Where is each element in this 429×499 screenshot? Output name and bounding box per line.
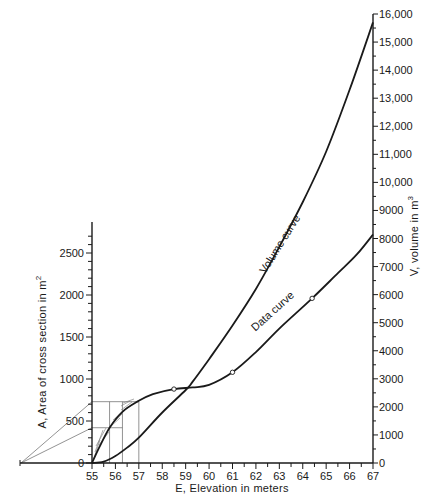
- y-right-axis-title-main: V, volume in m: [408, 200, 420, 276]
- y-left-tick-label: 1500: [60, 331, 84, 343]
- tick-labels: 5556575859606162636465666705001000150020…: [60, 8, 413, 482]
- y-right-tick-label: 10,000: [379, 176, 413, 188]
- y-right-tick-label: 6000: [379, 289, 403, 301]
- y-right-axis-title: V, volume in m3: [406, 195, 420, 276]
- y-right-axis-title-sup: 3: [406, 195, 415, 200]
- y-right-tick-label: 3000: [379, 373, 403, 385]
- curves: [92, 22, 373, 463]
- data-point-marker: [310, 296, 314, 300]
- hatch-line: [123, 399, 134, 403]
- y-right-tick-label: 11,000: [379, 148, 412, 160]
- y-right-tick-label: 8000: [379, 233, 403, 245]
- y-right-tick-label: 4000: [379, 345, 403, 357]
- y-left-axis-title: A, Area of cross section in m2: [34, 275, 48, 428]
- volume-curve-label: Volume curve: [257, 212, 302, 275]
- x-tick-label: 61: [226, 470, 238, 482]
- y-right-tick-label: 0: [379, 457, 385, 469]
- y-left-tick-label: 1000: [60, 373, 84, 385]
- x-tick-label: 59: [180, 470, 192, 482]
- y-left-tick-label: 0: [78, 457, 84, 469]
- y-right-tick-label: 1000: [379, 429, 403, 441]
- data-point-marker: [230, 370, 234, 374]
- y-left-tick-label: 2000: [60, 289, 84, 301]
- y-right-tick-label: 9000: [379, 204, 403, 216]
- x-tick-label: 67: [367, 470, 379, 482]
- y-left-tick-label: 2500: [60, 247, 84, 259]
- x-tick-label: 66: [343, 470, 355, 482]
- x-tick-label: 56: [109, 470, 121, 482]
- area-volume-chart: 5556575859606162636465666705001000150020…: [0, 0, 429, 499]
- x-tick-label: 65: [320, 470, 332, 482]
- data-curve: [92, 235, 373, 464]
- data-point-marker: [172, 387, 176, 391]
- x-tick-label: 58: [156, 470, 168, 482]
- y-right-tick-label: 16,000: [379, 8, 413, 20]
- y-right-tick-label: 15,000: [379, 36, 413, 48]
- y-right-tick-label: 14,000: [379, 64, 413, 76]
- x-tick-label: 64: [297, 470, 309, 482]
- x-tick-label: 60: [203, 470, 215, 482]
- y-right-tick-label: 13,000: [379, 92, 413, 104]
- volume-curve: [92, 22, 373, 463]
- x-axis-title: E, Elevation in meters: [175, 482, 289, 494]
- x-tick-label: 55: [86, 470, 98, 482]
- y-left-axis-title-sup: 2: [34, 275, 43, 280]
- y-right-tick-label: 2000: [379, 401, 403, 413]
- x-tick-label: 57: [133, 470, 145, 482]
- y-right-tick-label: 5000: [379, 317, 403, 329]
- data-curve-label: Data curve: [249, 289, 297, 334]
- axes: [20, 14, 378, 469]
- y-right-tick-label: 12,000: [379, 120, 413, 132]
- y-left-axis-title-main: A, Area of cross section in m: [36, 280, 48, 428]
- construction-ray: [21, 402, 92, 463]
- x-tick-label: 62: [250, 470, 262, 482]
- y-left-tick-label: 500: [66, 415, 84, 427]
- y-right-tick-label: 7000: [379, 261, 403, 273]
- x-tick-label: 63: [273, 470, 285, 482]
